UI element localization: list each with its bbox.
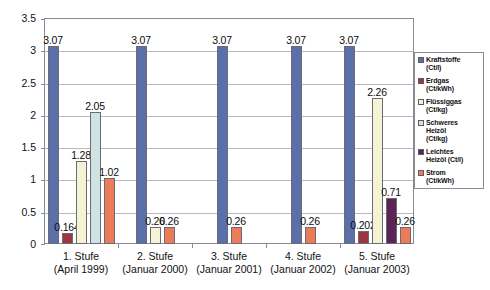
bar-slot: 0.71 xyxy=(386,18,397,244)
bar-slot: 0.26 xyxy=(150,18,161,244)
bar-slot: 1.02 xyxy=(104,18,115,244)
x-label-line-1: 2. Stufe xyxy=(137,250,173,262)
bar-value-label: 3.07 xyxy=(286,34,306,46)
bar-value-label: 3.07 xyxy=(339,34,359,46)
x-axis-labels: 1. Stufe(April 1999)2. Stufe(Januar 2000… xyxy=(44,250,414,286)
bar[interactable]: 0.26 xyxy=(305,227,316,244)
bar-value-label: 0.71 xyxy=(381,186,401,198)
y-tick-label: 0 xyxy=(30,238,36,250)
legend-item-label: Erdgas(Ct/kWh) xyxy=(426,77,454,93)
bar-value-label: 0.26 xyxy=(395,215,415,227)
bar[interactable]: 3.07 xyxy=(48,46,59,244)
chart-legend: Kraftstoffe(Ct/l)Erdgas(Ct/kWh)Flüssigga… xyxy=(414,52,484,189)
bar[interactable]: 2.26 xyxy=(372,98,383,244)
bar-slot: 2.26 xyxy=(372,18,383,244)
legend-swatch-kraftstoffe xyxy=(418,57,424,63)
x-label-line-1: 1. Stufe xyxy=(63,250,99,262)
x-axis-category-label: 2. Stufe(Januar 2000) xyxy=(118,250,192,276)
legend-item[interactable]: Strom(Ct/kWh) xyxy=(418,169,481,185)
x-axis-category-label: 5. Stufe(Januar 2003) xyxy=(340,250,414,276)
bar-slot: 0.26 xyxy=(231,18,242,244)
legend-item-label: Strom(Ct/kWh) xyxy=(426,169,454,185)
x-label-line-2: (Januar 2003) xyxy=(340,263,414,276)
bar[interactable]: 1.02 xyxy=(104,178,115,244)
legend-swatch-strom xyxy=(418,170,424,176)
legend-swatch-leichtes-heizoel xyxy=(418,149,424,155)
bar[interactable]: 0.26 xyxy=(150,227,161,244)
bar-slot: 0.26 xyxy=(164,18,175,244)
legend-swatch-fluessiggas xyxy=(418,99,424,105)
bar-group: 3.070.26 xyxy=(266,18,340,244)
bar-value-label: 3.07 xyxy=(43,34,63,46)
x-axis-category-label: 1. Stufe(April 1999) xyxy=(44,250,118,276)
legend-item-label: SchweresHeizöl(Ct/kg) xyxy=(426,119,458,143)
bar-value-label: 2.26 xyxy=(367,86,387,98)
legend-item[interactable]: Erdgas(Ct/kWh) xyxy=(418,77,481,93)
bar[interactable]: 0.26 xyxy=(400,227,411,244)
y-tick-label: 1.5 xyxy=(21,141,36,153)
bar-groups: 3.070.1641.282.051.023.070.260.263.070.2… xyxy=(44,18,414,244)
bar-value-label: 0.26 xyxy=(159,215,179,227)
bar[interactable]: 0.164 xyxy=(62,233,73,244)
legend-item[interactable]: SchweresHeizöl(Ct/kg) xyxy=(418,119,481,143)
bar-value-label: 1.28 xyxy=(71,149,91,161)
y-tick-label: 3.5 xyxy=(21,12,36,24)
bar[interactable]: 3.07 xyxy=(344,46,355,244)
legend-item-label: Kraftstoffe(Ct/l) xyxy=(426,56,460,72)
bar[interactable]: 0.26 xyxy=(164,227,175,244)
x-axis-group-tick xyxy=(340,244,341,248)
bar[interactable]: 0.202 xyxy=(358,231,369,244)
x-axis-category-label: 4. Stufe(Januar 2002) xyxy=(266,250,340,276)
bar-slot: 3.07 xyxy=(217,18,228,244)
legend-item-label: Flüssiggas(Ct/kg) xyxy=(426,98,462,114)
bar-value-label: 0.26 xyxy=(300,215,320,227)
bar-slot: 3.07 xyxy=(291,18,302,244)
legend-item[interactable]: Flüssiggas(Ct/kg) xyxy=(418,98,481,114)
bar-chart: 00.511.522.533.5 3.070.1641.282.051.023.… xyxy=(0,0,490,290)
legend-swatch-erdgas xyxy=(418,78,424,84)
bar-group-bars: 3.070.26 xyxy=(192,18,266,244)
y-tick-label: 1 xyxy=(30,173,36,185)
x-label-line-1: 5. Stufe xyxy=(359,250,395,262)
x-label-line-2: (Januar 2002) xyxy=(266,263,340,276)
bar-slot: 3.07 xyxy=(136,18,147,244)
x-label-line-2: (Januar 2000) xyxy=(118,263,192,276)
x-label-line-2: (April 1999) xyxy=(44,263,118,276)
legend-item[interactable]: Kraftstoffe(Ct/l) xyxy=(418,56,481,72)
bar-slot: 2.05 xyxy=(90,18,101,244)
legend-item[interactable]: LeichtesHeizöl (Ct/l) xyxy=(418,148,481,164)
x-axis-category-label: 3. Stufe(Januar 2001) xyxy=(192,250,266,276)
x-label-line-2: (Januar 2001) xyxy=(192,263,266,276)
bar-slot: 3.07 xyxy=(48,18,59,244)
bar[interactable]: 0.26 xyxy=(231,227,242,244)
legend-swatch-schweres-heizoel xyxy=(418,120,424,126)
bar-value-label: 3.07 xyxy=(131,34,151,46)
bar-value-label: 1.02 xyxy=(99,166,119,178)
bar-group-bars: 3.070.260.26 xyxy=(118,18,192,244)
legend-item-label: LeichtesHeizöl (Ct/l) xyxy=(426,148,463,164)
bar-slot: 0.202 xyxy=(358,18,369,244)
bar-value-label: 2.05 xyxy=(85,100,105,112)
bar-group: 3.070.2022.260.710.26 xyxy=(340,18,414,244)
bar-group: 3.070.26 xyxy=(192,18,266,244)
bar-slot: 0.26 xyxy=(305,18,316,244)
y-tick-label: 2 xyxy=(30,109,36,121)
x-label-line-1: 3. Stufe xyxy=(211,250,247,262)
y-tick-label: 2.5 xyxy=(21,77,36,89)
bar-slot: 3.07 xyxy=(344,18,355,244)
bar-slot: 1.28 xyxy=(76,18,87,244)
bar-value-label: 3.07 xyxy=(212,34,232,46)
bar-slot: 0.26 xyxy=(400,18,411,244)
bar-group-bars: 3.070.26 xyxy=(266,18,340,244)
bar-slot: 0.164 xyxy=(62,18,73,244)
bar[interactable]: 1.28 xyxy=(76,161,87,244)
bar-group: 3.070.260.26 xyxy=(118,18,192,244)
y-axis-tick xyxy=(41,244,45,245)
bar-group-bars: 3.070.1641.282.051.02 xyxy=(44,18,118,244)
bar-value-label: 0.26 xyxy=(226,215,246,227)
y-axis-labels: 00.511.522.533.5 xyxy=(0,18,40,244)
x-axis-group-tick xyxy=(266,244,267,248)
y-tick-label: 3 xyxy=(30,44,36,56)
bar-group: 3.070.1641.282.051.02 xyxy=(44,18,118,244)
x-axis-group-tick xyxy=(118,244,119,248)
